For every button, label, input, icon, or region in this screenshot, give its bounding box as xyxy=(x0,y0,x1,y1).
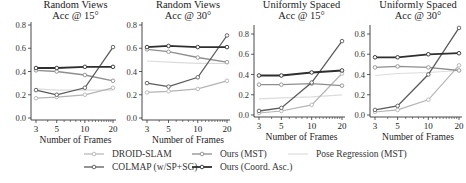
series-line xyxy=(259,84,342,86)
data-point-marker xyxy=(373,55,377,59)
data-point-marker xyxy=(396,55,400,59)
x-tick-label: 5 xyxy=(395,121,400,131)
series-line xyxy=(147,49,227,62)
series-line xyxy=(147,61,227,63)
data-point-marker xyxy=(340,69,344,73)
x-tick-label: 5 xyxy=(54,124,59,134)
legend-line-marker-icon xyxy=(84,163,104,171)
data-point-marker xyxy=(257,74,261,78)
data-point-marker xyxy=(83,93,87,97)
x-tick-label: 3 xyxy=(257,121,262,131)
y-tick-label: 0.4 xyxy=(15,67,26,77)
series-line xyxy=(147,81,227,93)
x-tick-label: 20 xyxy=(109,124,119,134)
data-point-marker xyxy=(167,44,171,48)
legend-item-droid-slam: DROID-SLAM xyxy=(84,149,172,159)
legend-label: Ours (MST) xyxy=(220,149,267,159)
data-point-marker xyxy=(257,83,261,87)
data-point-marker xyxy=(396,108,400,112)
data-point-marker xyxy=(83,86,87,90)
chart-legend: DROID-SLAM COLMAP (w/SP+SG) Ours (MST) O… xyxy=(0,145,466,183)
legend-item-ours-coord-asc: Ours (Coord. Asc.) xyxy=(192,162,292,172)
chart-title: Acc @ 15° xyxy=(278,10,325,21)
data-point-marker xyxy=(457,51,461,55)
data-point-marker xyxy=(167,50,171,54)
y-tick-label: 0.2 xyxy=(354,90,365,100)
data-point-marker xyxy=(257,109,261,113)
data-point-marker xyxy=(196,87,200,91)
data-point-marker xyxy=(280,74,284,78)
data-point-marker xyxy=(225,79,229,83)
x-tick-label: 20 xyxy=(338,121,348,131)
chart-panel-2: Random ViewsAcc @ 30°0.00.20.40.60.83510… xyxy=(126,0,232,145)
legend-item-pose-regression: Pose Regression (MST) xyxy=(288,149,407,159)
y-tick-label: 0.0 xyxy=(238,110,249,120)
data-point-marker xyxy=(280,83,284,87)
legend-label: Pose Regression (MST) xyxy=(316,149,407,159)
data-point-marker xyxy=(111,86,115,90)
x-tick-label: 10 xyxy=(193,124,203,134)
x-axis-label: Number of Frames xyxy=(382,132,454,142)
x-axis-label: Number of Frames xyxy=(152,135,224,145)
chart-panel-3: Uniformly SpacedAcc @ 15°0.00.20.40.60.8… xyxy=(238,0,347,142)
data-point-marker xyxy=(145,81,149,85)
data-point-marker xyxy=(111,79,115,83)
data-point-marker xyxy=(196,56,200,60)
y-tick-label: 0.6 xyxy=(354,49,365,59)
data-point-marker xyxy=(196,76,200,80)
y-tick-label: 0.2 xyxy=(126,90,137,100)
x-tick-label: 5 xyxy=(166,124,171,134)
data-point-marker xyxy=(111,65,115,69)
chart-title: Uniformly Spaced xyxy=(379,0,457,10)
series-line xyxy=(375,53,459,57)
series-line xyxy=(147,36,227,87)
data-point-marker xyxy=(457,69,461,73)
series-line xyxy=(375,71,459,76)
legend-item-ours-mst: Ours (MST) xyxy=(192,149,267,159)
data-point-marker xyxy=(145,45,149,49)
data-point-marker xyxy=(280,106,284,110)
chart-title: Acc @ 15° xyxy=(52,10,99,21)
data-point-marker xyxy=(457,26,461,30)
data-point-marker xyxy=(55,93,59,97)
data-point-marker xyxy=(373,66,377,70)
y-tick-label: 0.8 xyxy=(238,29,249,39)
data-point-marker xyxy=(457,64,461,68)
data-point-marker xyxy=(396,104,400,108)
x-tick-label: 3 xyxy=(145,124,150,134)
data-point-marker xyxy=(225,45,229,49)
legend-line-icon xyxy=(288,150,308,158)
data-point-marker xyxy=(427,52,431,56)
series-line xyxy=(259,74,342,114)
legend-line-marker-icon xyxy=(192,150,212,158)
legend-label: Ours (Coord. Asc.) xyxy=(220,162,292,172)
data-point-marker xyxy=(34,66,38,70)
y-tick-label: 0.8 xyxy=(126,20,137,30)
legend-item-colmap: COLMAP (w/SP+SG) xyxy=(84,162,198,172)
data-point-marker xyxy=(83,65,87,69)
y-tick-label: 0.8 xyxy=(15,20,26,30)
data-point-marker xyxy=(167,89,171,93)
data-point-marker xyxy=(427,98,431,102)
legend-line-marker-icon xyxy=(192,163,212,171)
data-point-marker xyxy=(310,81,314,85)
data-point-marker xyxy=(145,91,149,95)
data-point-marker xyxy=(396,65,400,69)
chart-title: Acc @ 30° xyxy=(165,10,212,21)
data-point-marker xyxy=(34,88,38,92)
x-tick-label: 10 xyxy=(307,121,317,131)
data-point-marker xyxy=(373,108,377,112)
series-line xyxy=(259,71,342,76)
series-line xyxy=(36,70,113,81)
y-tick-label: 0.0 xyxy=(126,113,137,123)
chart-panel-1: Random ViewsAcc @ 15°0.00.20.40.60.83510… xyxy=(15,0,118,145)
x-tick-label: 20 xyxy=(455,121,465,131)
data-point-marker xyxy=(310,71,314,75)
data-point-marker xyxy=(340,39,344,43)
y-tick-label: 0.6 xyxy=(15,43,26,53)
x-tick-label: 3 xyxy=(373,121,378,131)
data-point-marker xyxy=(196,45,200,49)
y-tick-label: 0.4 xyxy=(354,70,365,80)
x-tick-label: 10 xyxy=(80,124,90,134)
y-tick-label: 0.4 xyxy=(126,67,137,77)
